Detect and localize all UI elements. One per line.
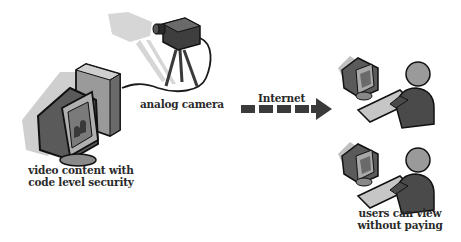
diagram-graphics	[0, 0, 461, 242]
user-at-computer-icon	[338, 56, 434, 128]
user-at-computer-icon	[338, 142, 434, 214]
diagram-canvas: analog camera video content with code le…	[0, 0, 461, 242]
source-label: video content with code level security	[26, 164, 136, 188]
computer-monitor-icon	[38, 64, 120, 166]
users-label-line1: users can view	[354, 207, 446, 219]
internet-label: Internet	[258, 92, 305, 104]
source-label-line2: code level security	[26, 176, 136, 188]
camera-label: analog camera	[140, 98, 224, 110]
users-label-line2: without paying	[354, 219, 446, 231]
source-label-line1: video content with	[26, 164, 136, 176]
users-label: users can view without paying	[354, 207, 446, 231]
